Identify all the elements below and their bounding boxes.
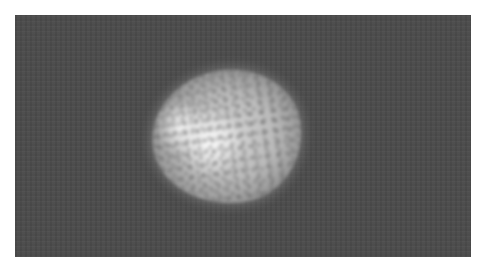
micrograph-frame <box>15 15 471 257</box>
particle-texture <box>143 60 310 214</box>
bright-particle <box>143 60 310 214</box>
